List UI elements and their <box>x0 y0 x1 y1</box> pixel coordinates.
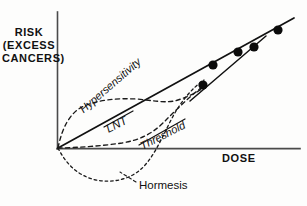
hypersensitivity-curve <box>58 86 206 148</box>
dose-response-figure: RISK (EXCESS CANCERS) DOSE Hypersensitiv… <box>0 0 307 206</box>
threshold-curve <box>58 84 206 148</box>
x-axis-label: DOSE <box>222 152 256 165</box>
y-axis-label-line-2: (EXCESS <box>2 39 56 52</box>
data-point <box>233 47 242 56</box>
data-point <box>208 60 217 69</box>
y-axis-label: RISK (EXCESS CANCERS) <box>2 26 56 65</box>
hormesis-label: Hormesis <box>139 179 188 191</box>
data-point <box>249 42 258 51</box>
y-axis-label-line-1: RISK <box>2 26 56 39</box>
data-point <box>273 25 282 34</box>
y-axis-label-line-3: CANCERS) <box>2 52 56 65</box>
data-point <box>198 80 207 89</box>
